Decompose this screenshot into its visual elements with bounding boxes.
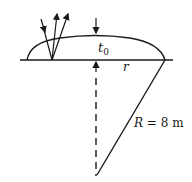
small-radius-label: r: [123, 60, 130, 74]
incident-ray-tail: [44, 30, 52, 60]
lens-diagram: t0 r R = 8 m: [0, 0, 192, 182]
big-radius-label: R = 8 m: [133, 116, 184, 130]
film-arc: [27, 36, 165, 61]
thickness-label: t0: [98, 40, 109, 57]
